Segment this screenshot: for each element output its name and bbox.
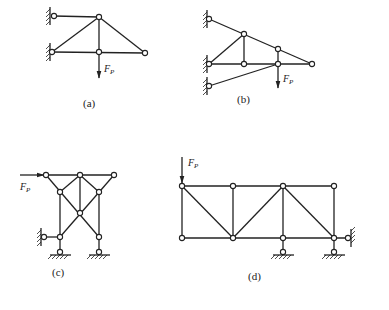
pin-node bbox=[96, 49, 101, 54]
pin-node bbox=[96, 14, 101, 19]
pin-node bbox=[280, 249, 285, 254]
ground-support-icon bbox=[322, 255, 345, 259]
pin-node bbox=[275, 61, 280, 66]
pin-node bbox=[331, 235, 336, 240]
pin-node bbox=[57, 234, 62, 239]
caption-a: (a) bbox=[83, 97, 96, 110]
pin-node bbox=[142, 50, 147, 55]
pin-node bbox=[57, 249, 62, 254]
pin-node bbox=[111, 172, 116, 177]
pin-node bbox=[43, 172, 48, 177]
pin-node bbox=[77, 210, 82, 215]
pin-node bbox=[275, 46, 280, 51]
pin-node bbox=[309, 61, 314, 66]
pin-node bbox=[41, 234, 46, 239]
caption-d: (d) bbox=[248, 270, 261, 283]
truss-d: FP bbox=[179, 157, 355, 283]
pin-node bbox=[280, 183, 285, 188]
svg-text:FP: FP bbox=[19, 181, 31, 194]
ground-support-icon bbox=[48, 255, 71, 259]
svg-text:FP: FP bbox=[282, 73, 294, 86]
pin-node bbox=[206, 61, 211, 66]
caption-b: (b) bbox=[237, 93, 250, 106]
caption-c: (c) bbox=[52, 266, 65, 279]
ground-support-icon bbox=[87, 255, 110, 259]
pin-node bbox=[331, 249, 336, 254]
truss-b: FP (b) bbox=[203, 10, 315, 106]
pin-node bbox=[179, 183, 184, 188]
pin-node bbox=[241, 61, 246, 66]
wall-support-icon bbox=[351, 227, 355, 247]
truss-a: FP (a) bbox=[46, 7, 148, 110]
pin-node bbox=[241, 31, 246, 36]
ground-support-icon bbox=[271, 255, 294, 259]
pin-node bbox=[49, 49, 54, 54]
pin-node bbox=[206, 83, 211, 88]
pin-node bbox=[77, 172, 82, 177]
svg-text:FP: FP bbox=[103, 63, 115, 76]
truss-c: FP bbox=[19, 172, 117, 279]
pin-node bbox=[179, 235, 184, 240]
pin-node bbox=[331, 183, 336, 188]
pin-node bbox=[96, 249, 101, 254]
pin-node bbox=[57, 189, 62, 194]
pin-node bbox=[96, 234, 101, 239]
pin-node bbox=[345, 235, 350, 240]
wall-support-icon bbox=[37, 228, 41, 246]
pin-node bbox=[96, 189, 101, 194]
pin-node bbox=[206, 16, 211, 21]
truss-figure: FP (a) bbox=[0, 0, 389, 310]
pin-node bbox=[280, 235, 285, 240]
pin-node bbox=[230, 235, 235, 240]
pin-node bbox=[51, 13, 56, 18]
wall-support-icon bbox=[46, 7, 50, 25]
pin-node bbox=[230, 183, 235, 188]
svg-text:FP: FP bbox=[187, 157, 199, 170]
